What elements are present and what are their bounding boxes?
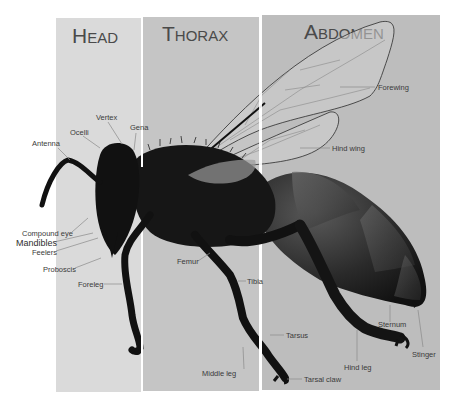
divider-thorax-abdomen-lower	[259, 245, 262, 391]
label-femur: Femur	[177, 257, 199, 266]
label-ocelli: Ocelli	[70, 128, 89, 137]
label-compound-eye: Compound eye	[22, 229, 73, 238]
divider-thorax-abdomen	[259, 15, 262, 165]
label-gena: Gena	[130, 123, 149, 132]
label-stinger: Stinger	[412, 350, 436, 359]
label-feelers: Feelers	[32, 248, 57, 257]
bee-anatomy-diagram: HEAD THORAX ABDOMEN	[0, 0, 451, 401]
label-sternum: Sternum	[378, 320, 406, 329]
label-antenna: Antenna	[32, 139, 61, 148]
divider-head-thorax-lower	[141, 262, 143, 392]
label-middle-leg: Middle leg	[202, 369, 236, 378]
label-mandibles: Mandibles	[16, 238, 58, 248]
label-proboscis: Proboscis	[43, 265, 76, 274]
label-tarsus: Tarsus	[286, 331, 308, 340]
divider-head-thorax	[141, 17, 143, 167]
label-tibia: Tibia	[247, 277, 264, 286]
label-hind-leg: Hind leg	[344, 363, 372, 372]
label-tarsal-claw: Tarsal claw	[304, 375, 342, 384]
label-hind-wing: Hind wing	[332, 144, 365, 153]
label-foreleg: Foreleg	[78, 280, 103, 289]
label-forewing: Forewing	[378, 83, 409, 92]
label-vertex: Vertex	[96, 113, 118, 122]
